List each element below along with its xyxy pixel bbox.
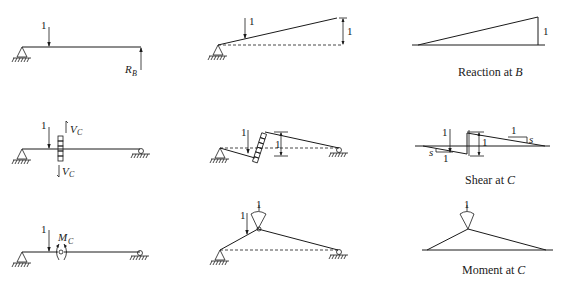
- hinge-icon: [59, 250, 63, 254]
- moment-subscript: C: [68, 237, 74, 246]
- reaction-influence-line: 1 Reaction at B: [412, 17, 549, 79]
- reaction-subscript: B: [132, 69, 137, 78]
- caption-reaction: Reaction at B: [458, 65, 523, 79]
- ordinate-label: 1: [543, 25, 549, 37]
- ordinate-label: 1: [275, 138, 281, 150]
- unit-load-label: 1: [41, 119, 47, 131]
- pin-support-icon: [208, 45, 227, 60]
- roller-support-icon: [329, 250, 348, 260]
- slope-left-run: 1: [443, 152, 449, 164]
- ordinate-dimension-icon: [339, 18, 347, 45]
- left-segment: [220, 148, 255, 158]
- roller-support-icon: [329, 148, 348, 158]
- unit-load-arrow-icon: [246, 130, 249, 154]
- shear-released-structure: 1 V C V C: [12, 119, 150, 179]
- pin-support-icon: [12, 252, 31, 267]
- shear-top-subscript: C: [77, 128, 83, 137]
- moment-influence-triangle: [427, 229, 546, 250]
- influence-line-figure: 1 R B 1: [0, 0, 569, 298]
- unit-load-label: 1: [241, 126, 247, 138]
- slope-left-rise: s: [429, 146, 433, 158]
- rotation-label: 1: [464, 198, 470, 210]
- jump-label: 1: [482, 136, 488, 148]
- row-shear: 1 V C V C: [12, 119, 550, 187]
- shear-down-arrow-icon: [57, 165, 59, 177]
- reaction-released-structure: 1 R B: [12, 19, 143, 78]
- unit-load-label: 1: [249, 15, 255, 27]
- deflected-beam: [220, 229, 338, 250]
- ordinate-label: 1: [347, 25, 353, 37]
- unit-load-arrow-icon: [47, 127, 50, 149]
- row-reaction: 1 R B 1: [12, 15, 549, 79]
- unit-load-label: 1: [442, 126, 448, 138]
- influence-triangle: [418, 17, 538, 45]
- unit-load-arrow-icon: [47, 27, 50, 47]
- unit-load-arrow-icon: [448, 129, 451, 153]
- unit-load-label: 1: [41, 223, 47, 235]
- shear-bottom-subscript: C: [69, 170, 75, 179]
- unit-load-label: 1: [41, 19, 47, 31]
- reaction-label: R: [124, 63, 132, 75]
- caption-moment: Moment at C: [462, 263, 526, 277]
- row-moment: 1 M C: [12, 198, 553, 277]
- unit-load-label: 1: [240, 209, 246, 221]
- roller-support-icon: [131, 149, 150, 159]
- unit-load-arrow-icon: [245, 213, 248, 235]
- shear-deflected-shape: 1 1: [210, 126, 348, 163]
- unit-load-arrow-icon: [243, 18, 246, 39]
- moment-label: M: [57, 231, 68, 243]
- unit-load-arrow-icon: [47, 230, 50, 252]
- shear-up-arrow-icon: [66, 121, 68, 133]
- pin-support-icon: [12, 149, 31, 164]
- reaction-deflected-shape: 1 1: [208, 15, 353, 60]
- pin-support-icon: [210, 250, 229, 265]
- moment-influence-line: 1 Moment at C: [422, 198, 553, 277]
- slope-right-rise: s: [529, 133, 533, 145]
- reaction-arrow-icon: [139, 47, 142, 70]
- pin-support-icon: [12, 47, 31, 62]
- moment-deflected-shape: 1 1: [210, 198, 348, 265]
- rotation-label: 1: [256, 198, 262, 210]
- slope-right-run: 1: [511, 124, 517, 136]
- deflected-beam: [218, 18, 337, 45]
- moment-released-structure: 1 M C: [12, 223, 149, 267]
- shear-influence-line: 1 1 1 s s 1 Shear at C: [415, 124, 550, 187]
- caption-shear: Shear at C: [465, 173, 516, 187]
